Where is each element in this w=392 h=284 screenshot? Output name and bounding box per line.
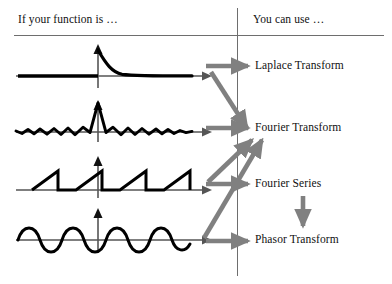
arrow-sawtooth-to-fourier	[208, 140, 252, 182]
label-fourier-transform: Fourier Transform	[255, 121, 341, 133]
arrow-exponential-to-fourier	[211, 72, 247, 128]
label-phasor-transform: Phasor Transform	[255, 233, 339, 245]
transform-selection-diagram: If your function is … You can use …	[0, 0, 392, 284]
arrow-sinusoid-to-fourier	[204, 140, 262, 238]
label-fourier-series: Fourier Series	[255, 177, 321, 189]
label-laplace-transform: Laplace Transform	[255, 59, 344, 71]
